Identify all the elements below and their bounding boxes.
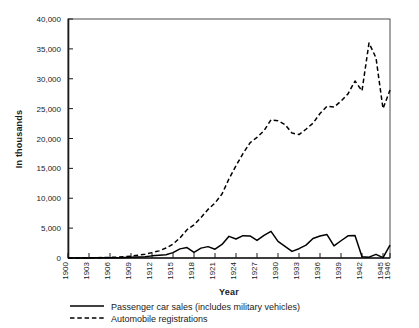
x-tick-label: 1939 [334, 261, 343, 279]
x-tick-label: 1946 [383, 261, 392, 279]
x-tick-label: 1936 [313, 261, 322, 279]
x-tick-label: 1918 [187, 261, 196, 279]
x-tick-label: 1912 [145, 261, 154, 279]
y-tick-label: 20,000 [37, 135, 62, 144]
x-axis-title: Year [219, 287, 239, 297]
legend-label-0: Passenger car sales (includes military v… [111, 302, 300, 312]
y-tick-label: 40,000 [37, 15, 62, 24]
x-tick-label: 1921 [208, 261, 217, 279]
x-tick-label: 1900 [61, 261, 70, 279]
y-tick-label: 0 [57, 254, 62, 263]
x-tick-label: 1924 [229, 261, 238, 279]
y-tick-label: 15,000 [37, 164, 62, 173]
x-tick-label: 1906 [103, 261, 112, 279]
x-tick-label: 1909 [124, 261, 133, 279]
automobile-chart-figure: 05,00010,00015,00020,00025,00030,00035,0… [0, 0, 419, 328]
y-tick-label: 10,000 [37, 194, 62, 203]
y-tick-label: 30,000 [37, 75, 62, 84]
x-tick-label: 1915 [166, 261, 175, 279]
x-tick-label: 1930 [271, 261, 280, 279]
y-tick-label: 35,000 [37, 45, 62, 54]
x-tick-label: 1927 [250, 261, 259, 279]
y-tick-label: 5,000 [41, 224, 62, 233]
x-tick-label: 1933 [292, 261, 301, 279]
legend-label-1: Automobile registrations [111, 314, 208, 324]
x-tick-label: 1903 [82, 261, 91, 279]
y-axis-title: In thousands [14, 110, 24, 168]
x-tick-label: 1942 [355, 261, 364, 279]
y-tick-label: 25,000 [37, 105, 62, 114]
